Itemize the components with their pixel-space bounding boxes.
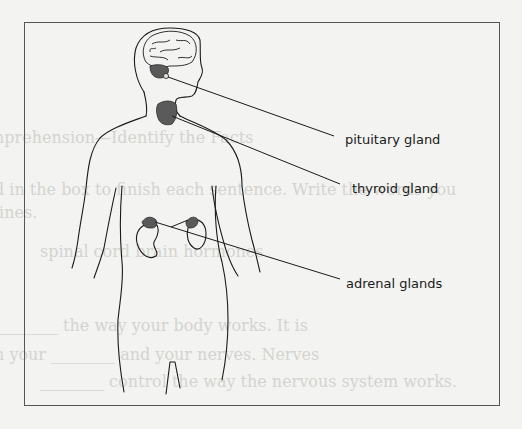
arm-left-inner [94,188,116,278]
adrenal-right-connector [171,220,188,227]
body-right-outline [180,116,260,272]
endocrine-body-figure [0,0,522,429]
adrenal-right [186,217,198,228]
pituitary-dot [163,73,168,78]
leg-gap [166,362,180,394]
brain [143,31,196,67]
adrenal-left [142,217,157,228]
adrenal-glands-label: adrenal glands [346,276,442,291]
pituitary-gland-label: pituitary gland [345,132,440,147]
arm-right-inner [212,186,238,276]
neck-left [144,92,147,116]
adrenal-leader-line [155,222,340,279]
kidney-left [136,224,158,258]
thyroid-gland-label: thyroid gland [352,181,438,196]
body-left-outline [72,116,146,268]
torso-left [118,186,124,392]
thyroid-leader-line [172,116,340,184]
pituitary-leader-line [168,77,334,136]
thyroid-gland [157,101,177,125]
